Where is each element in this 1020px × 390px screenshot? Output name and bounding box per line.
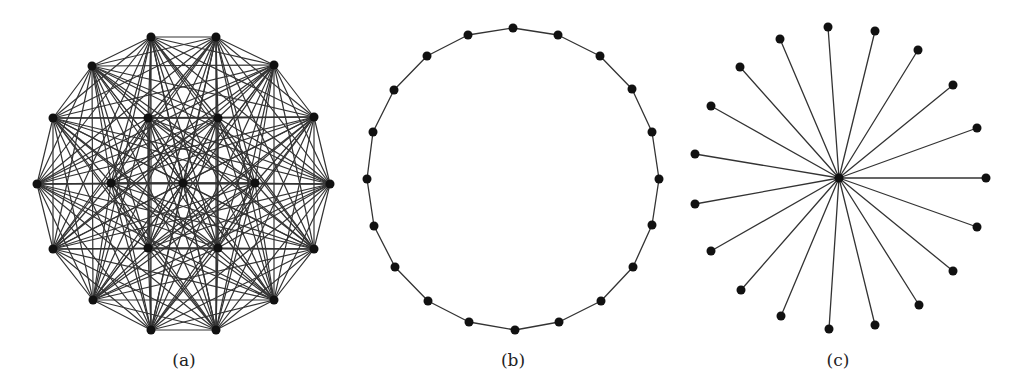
graph-node <box>369 128 378 137</box>
graph-node <box>648 221 657 230</box>
graph-edge <box>839 178 977 227</box>
graph-node <box>629 263 638 272</box>
graph-edge <box>395 267 428 301</box>
graph-node <box>707 102 716 111</box>
graph-edge <box>469 322 515 330</box>
graph-edge <box>839 128 977 178</box>
graph-node <box>555 318 564 327</box>
graph-node <box>214 244 223 253</box>
graph-edge <box>652 132 659 179</box>
graph-node <box>648 128 657 137</box>
graph-node <box>982 174 991 183</box>
graph-edge <box>839 85 953 178</box>
graph-node <box>835 174 844 183</box>
graph-node <box>914 46 923 55</box>
graph-node <box>949 267 958 276</box>
graph-a-complete <box>33 33 335 335</box>
figure-canvas <box>0 0 1020 390</box>
graph-edge <box>428 301 469 322</box>
graph-node <box>825 325 834 334</box>
graph-edge <box>839 178 875 325</box>
graph-edge <box>839 50 918 178</box>
graph-node <box>691 200 700 209</box>
graph-node <box>107 179 116 188</box>
graph-node <box>596 52 605 61</box>
graph-edge <box>93 248 218 300</box>
graph-edge <box>513 28 558 35</box>
graph-node <box>465 318 474 327</box>
graph-node <box>212 326 221 335</box>
caption-b: (b) <box>483 350 543 370</box>
graph-edge <box>148 37 216 118</box>
graph-edge <box>632 89 652 132</box>
graph-node <box>554 31 563 40</box>
graph-c-star <box>691 23 991 334</box>
graph-node <box>326 180 335 189</box>
graph-node <box>310 245 319 254</box>
graph-b-cycle <box>363 24 664 335</box>
graph-node <box>390 86 399 95</box>
graph-node <box>464 31 473 40</box>
graph-node <box>89 296 98 305</box>
graph-edge <box>601 267 633 301</box>
graph-edge <box>374 226 395 267</box>
graph-node <box>915 301 924 310</box>
graph-node <box>88 62 97 71</box>
graph-node <box>49 114 58 123</box>
graph-node <box>871 321 880 330</box>
graph-b-edges <box>367 28 659 330</box>
graph-node <box>179 179 188 188</box>
graph-node <box>511 326 520 335</box>
graph-edge <box>216 37 330 184</box>
graph-node <box>49 245 58 254</box>
graph-edge <box>468 28 513 35</box>
graph-node <box>391 263 400 272</box>
graph-edge <box>633 225 652 267</box>
graph-edge <box>740 67 839 178</box>
graph-edge <box>559 301 601 322</box>
graph-node <box>144 244 153 253</box>
graph-node <box>33 180 42 189</box>
graph-edge <box>839 31 875 178</box>
graph-edge <box>741 178 839 290</box>
graph-edge <box>600 56 632 89</box>
graph-edge <box>394 56 427 90</box>
graph-edge <box>427 35 468 56</box>
graph-edge <box>652 179 659 225</box>
graph-edge <box>148 248 216 330</box>
graph-edge <box>781 178 839 316</box>
graph-node <box>776 35 785 44</box>
graph-edge <box>37 37 151 184</box>
graph-node <box>270 61 279 70</box>
caption-c: (c) <box>808 350 868 370</box>
graph-node <box>691 150 700 159</box>
graph-node <box>424 297 433 306</box>
graph-node <box>212 33 221 42</box>
graph-node <box>777 312 786 321</box>
graph-node <box>251 179 260 188</box>
graph-edge <box>367 132 373 179</box>
caption-a: (a) <box>154 350 214 370</box>
graph-edge <box>558 35 600 56</box>
graph-edge <box>93 300 151 330</box>
graph-node <box>973 223 982 232</box>
graph-node <box>214 114 223 123</box>
graph-node <box>270 296 279 305</box>
graph-node <box>628 85 637 94</box>
graph-edge <box>515 322 559 330</box>
graph-node <box>707 247 716 256</box>
graph-edge <box>373 90 394 132</box>
graph-node <box>147 33 156 42</box>
graph-node <box>144 114 153 123</box>
graph-node <box>597 297 606 306</box>
graph-node <box>737 286 746 295</box>
graph-node <box>310 113 319 122</box>
graph-node <box>423 52 432 61</box>
graph-node <box>871 27 880 36</box>
graph-edge <box>839 178 953 271</box>
graph-node <box>736 63 745 72</box>
graph-b-nodes <box>363 24 664 335</box>
graph-edge <box>216 300 274 330</box>
graph-edge <box>839 178 919 305</box>
graph-node <box>147 326 156 335</box>
